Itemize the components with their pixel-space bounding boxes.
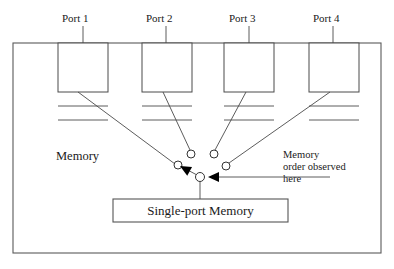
port-2-node-circle: [187, 150, 195, 158]
port-1-queue-box: [58, 43, 108, 92]
single-port-memory-label: Single-port Memory: [147, 203, 254, 218]
port-2-label: Port 2: [146, 12, 173, 24]
memory-ordering-diagram: Memory Port 1 Port 2 Port 3: [0, 0, 394, 269]
single-port-memory-group: Single-port Memory: [113, 199, 288, 222]
port-4-node-circle: [222, 162, 230, 170]
diagram-canvas: Memory Port 1 Port 2 Port 3: [0, 0, 394, 269]
port-1-label: Port 1: [62, 12, 89, 24]
port-4-label: Port 4: [313, 12, 340, 24]
port-3-queue-box: [224, 43, 274, 92]
annotation-line-1: Memory: [283, 149, 320, 160]
port-4-queue-box: [309, 43, 359, 92]
port-3-node-circle: [210, 150, 218, 158]
memory-label: Memory: [56, 149, 100, 163]
port-3-label: Port 3: [229, 12, 256, 24]
annotation-line-3: here: [283, 173, 301, 184]
annotation-line-2: order observed: [283, 161, 346, 172]
port-2-queue-box: [142, 43, 192, 92]
port-1-node-circle: [174, 161, 182, 169]
serialization-point-circle: [196, 173, 205, 182]
